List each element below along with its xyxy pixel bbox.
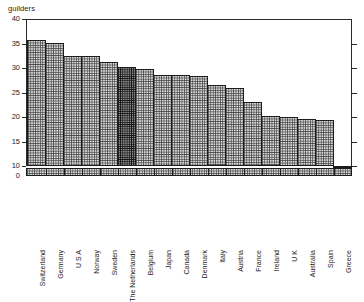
bar — [171, 75, 190, 166]
base-strip-divider — [46, 169, 47, 175]
bar — [27, 40, 46, 166]
x-axis-category-text: Spain — [327, 250, 334, 268]
y-tick-label: 35 — [4, 40, 20, 48]
y-tick-mark — [22, 93, 26, 94]
x-axis-category-text: The Netherlands — [129, 250, 136, 302]
x-axis-category-text: Switzerland — [39, 250, 46, 286]
y-tick-label: 40 — [4, 15, 20, 23]
x-axis-category-label: U S A — [75, 250, 82, 268]
bar — [297, 119, 316, 166]
base-strip-divider — [316, 169, 317, 175]
y-tick-mark-right — [352, 117, 357, 118]
y-tick-mark-right — [352, 166, 357, 167]
x-axis-category-text: Belgium — [147, 250, 154, 275]
y-tick-label: 10 — [4, 162, 20, 170]
x-axis-category-label: Italy — [219, 250, 226, 263]
base-strip-divider — [64, 169, 65, 175]
bar — [81, 56, 100, 166]
base-strip-divider — [244, 169, 245, 175]
base-strip-divider — [100, 169, 101, 175]
x-axis-category-text: Japan — [165, 250, 172, 269]
base-strip-divider — [208, 169, 209, 175]
y-tick-mark — [22, 44, 26, 45]
x-axis-category-label: Ireland — [273, 250, 280, 271]
bar — [261, 116, 280, 166]
base-strip-divider — [226, 169, 227, 175]
y-tick-mark — [22, 68, 26, 69]
y-tick-mark-right — [352, 142, 357, 143]
axis-base-strip — [26, 168, 352, 176]
x-axis-category-text: Ireland — [273, 250, 280, 271]
base-strip-divider — [172, 169, 173, 175]
base-strip-divider — [280, 169, 281, 175]
bar — [135, 69, 154, 166]
y-tick-mark-right — [352, 68, 357, 69]
x-axis-category-label: Sweden — [111, 250, 118, 275]
x-axis-category-label: Germany — [57, 250, 64, 279]
y-tick-label: 25 — [4, 89, 20, 97]
bar — [207, 85, 226, 166]
x-axis-category-label: Belgium — [147, 250, 154, 275]
y-tick-label: 0 — [4, 172, 20, 180]
x-axis-category-label: U K — [291, 250, 298, 262]
x-axis-category-text: Denmark — [201, 250, 208, 278]
base-strip-divider — [262, 169, 263, 175]
x-axis-category-text: U S A — [75, 250, 82, 268]
base-strip-divider — [136, 169, 137, 175]
y-tick-mark-right — [352, 44, 357, 45]
x-axis-category-text: U K — [291, 250, 298, 262]
y-tick-label: 15 — [4, 138, 20, 146]
x-axis-category-text: Greece — [345, 250, 352, 273]
base-strip-divider — [118, 169, 119, 175]
bar — [279, 117, 298, 166]
y-tick-mark — [22, 166, 26, 167]
base-strip-divider — [154, 169, 155, 175]
bar — [117, 67, 136, 166]
bar — [189, 76, 208, 166]
y-tick-label: 20 — [4, 113, 20, 121]
y-axis-unit-label: guilders — [8, 4, 35, 13]
x-axis-category-text: Canada — [183, 250, 190, 275]
x-axis-category-label: Japan — [165, 250, 172, 269]
base-strip-divider — [190, 169, 191, 175]
x-axis-category-label: Denmark — [201, 250, 208, 278]
bar — [315, 120, 334, 166]
bars-area — [27, 19, 351, 166]
bar — [99, 62, 118, 166]
x-axis-category-label: Canada — [183, 250, 190, 275]
bar — [153, 75, 172, 166]
x-axis-category-text: Norway — [93, 250, 100, 274]
x-axis-labels: SwitzerlandGermanyU S ANorwaySwedenThe N… — [27, 178, 351, 252]
x-axis-category-text: Germany — [57, 250, 64, 279]
x-axis-category-label: Australia — [309, 250, 316, 277]
x-axis-category-label: Greece — [345, 250, 352, 273]
x-axis-category-text: Italy — [219, 250, 226, 263]
x-axis-category-label: Norway — [93, 250, 100, 274]
y-tick-mark — [22, 117, 26, 118]
x-axis-category-label: France — [255, 250, 262, 272]
x-axis-category-text: France — [255, 250, 262, 272]
base-strip-divider — [82, 169, 83, 175]
base-strip-divider — [298, 169, 299, 175]
bar — [225, 88, 244, 166]
y-tick-mark-right — [352, 93, 357, 94]
y-tick-mark — [22, 19, 26, 20]
x-axis-category-label: Austria — [237, 250, 244, 272]
y-tick-label: 30 — [4, 64, 20, 72]
x-axis-category-label: The Netherlands — [129, 250, 136, 302]
bar — [63, 56, 82, 166]
base-strip-divider — [334, 169, 335, 175]
x-axis-category-label: Switzerland — [39, 250, 46, 286]
y-tick-mark — [22, 142, 26, 143]
bar — [243, 102, 262, 166]
x-axis-category-text: Australia — [309, 250, 316, 277]
bar — [45, 43, 64, 166]
x-axis-category-text: Austria — [237, 250, 244, 272]
x-axis-category-label: Spain — [327, 250, 334, 268]
x-axis-category-text: Sweden — [111, 250, 118, 275]
